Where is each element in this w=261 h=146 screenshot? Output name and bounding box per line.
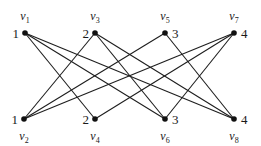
node-name-label: v1 bbox=[20, 9, 29, 25]
node-name-label: v6 bbox=[160, 129, 169, 145]
edges-layer bbox=[24, 33, 234, 119]
node-name-label: v3 bbox=[90, 9, 99, 25]
node-dot bbox=[92, 30, 98, 36]
node-name-label: v4 bbox=[90, 129, 99, 145]
node-dot bbox=[162, 30, 168, 36]
node-dot bbox=[162, 116, 168, 122]
node-dot bbox=[92, 116, 98, 122]
node-dot bbox=[231, 30, 237, 36]
node-weight-label: 1 bbox=[12, 112, 19, 127]
node-name-label: v8 bbox=[229, 129, 238, 145]
node-weight-label: 4 bbox=[241, 112, 248, 127]
graph-svg: 1v12v33v54v71v22v43v64v8 bbox=[0, 0, 261, 146]
node-name-label: v7 bbox=[229, 9, 238, 25]
node-v5: 3v5 bbox=[160, 9, 178, 41]
node-weight-label: 1 bbox=[13, 26, 20, 41]
node-v8: 4v8 bbox=[229, 112, 248, 145]
node-dot bbox=[21, 116, 27, 122]
node-dot bbox=[22, 30, 28, 36]
node-v4: 2v4 bbox=[83, 112, 100, 145]
node-weight-label: 3 bbox=[172, 26, 179, 41]
graph-diagram: 1v12v33v54v71v22v43v64v8 bbox=[0, 0, 261, 146]
node-weight-label: 4 bbox=[241, 26, 248, 41]
nodes-layer: 1v12v33v54v71v22v43v64v8 bbox=[12, 9, 249, 145]
node-name-label: v2 bbox=[19, 129, 28, 145]
node-weight-label: 3 bbox=[172, 112, 179, 127]
node-weight-label: 2 bbox=[83, 26, 90, 41]
node-weight-label: 2 bbox=[83, 112, 90, 127]
node-dot bbox=[231, 116, 237, 122]
node-name-label: v5 bbox=[160, 9, 169, 25]
